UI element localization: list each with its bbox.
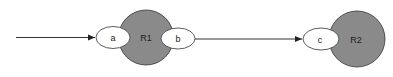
port-b-label: b <box>175 34 180 44</box>
port-b: b <box>161 28 195 49</box>
port-a: a <box>96 27 130 49</box>
region-r2-label: R2 <box>350 35 362 45</box>
port-c-label: c <box>318 35 323 45</box>
port-c: c <box>303 28 339 50</box>
diagram-canvas: R1 a b R2 c <box>0 0 393 77</box>
region-r1-label: R1 <box>140 33 152 43</box>
port-a-label: a <box>110 33 115 43</box>
